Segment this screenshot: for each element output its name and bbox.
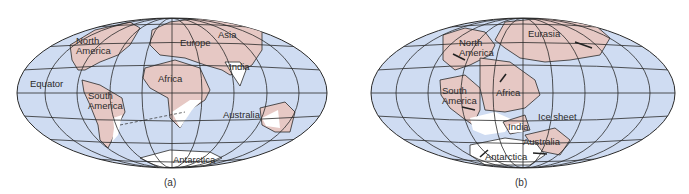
label-asia: Asia (218, 30, 236, 40)
label-africa: Africa (496, 88, 520, 98)
panel-b-gondwana-map: Eurasia North America South America Afri… (345, 0, 689, 194)
label-india: India (229, 62, 250, 72)
label-india: India (508, 122, 529, 132)
caption-b: (b) (515, 177, 527, 188)
label-north-america: North America (459, 38, 494, 58)
label-south-america: South America (442, 86, 477, 106)
label-north-america: North America (76, 36, 111, 56)
label-south-america: South America (88, 91, 123, 111)
label-equator: Equator (30, 79, 63, 89)
panel-a-present-day-map: North America Europe Asia India Equator … (0, 0, 345, 194)
label-africa: Africa (158, 74, 182, 84)
label-europe: Europe (180, 38, 211, 48)
label-australia: Australia (223, 110, 260, 120)
label-antarctica: Antarctica (173, 155, 215, 165)
caption-a: (a) (164, 177, 176, 188)
label-antarctica: Antarctica (485, 152, 527, 162)
label-australia: Australia (523, 137, 560, 147)
label-eurasia: Eurasia (528, 29, 560, 39)
label-ice-sheet: Ice sheet (538, 112, 577, 122)
